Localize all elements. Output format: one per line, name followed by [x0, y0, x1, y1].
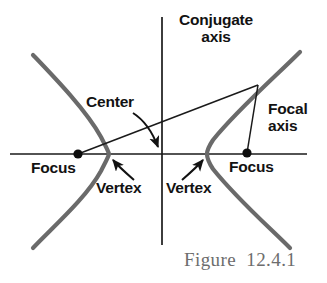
focus-left-dot [73, 149, 82, 158]
center-annotation-arrow [133, 113, 158, 147]
vertex-right-label: Vertex [166, 180, 211, 197]
focal-axis-label: Focalaxis [268, 101, 307, 134]
hyperbola-right-branch [207, 52, 300, 248]
hyperbola-left-branch [33, 55, 109, 248]
conjugate-axis-label-line1: Conjugate [179, 11, 253, 28]
focus-right-dot [242, 148, 251, 157]
figure-caption: Figure 12.4.1 [184, 249, 296, 271]
focus-left-label: Focus [31, 160, 76, 177]
conjugate-axis-label: Conjugateaxis [168, 12, 264, 45]
vertex-right-annotation-arrow [182, 160, 203, 180]
hyperbola-diagram-canvas [0, 0, 327, 283]
focal-axis-label-line2: axis [268, 117, 297, 134]
vertex-left-label: Vertex [96, 180, 141, 197]
focus-right-label: Focus [229, 159, 274, 176]
conjugate-axis-label-line2: axis [201, 28, 230, 45]
center-label: Center [86, 94, 134, 111]
focal-axis-label-line1: Focal [268, 100, 307, 117]
hyperbola-figure: Conjugateaxis Focalaxis Center Focus Foc… [0, 0, 327, 283]
vertex-left-annotation-arrow [113, 160, 134, 180]
